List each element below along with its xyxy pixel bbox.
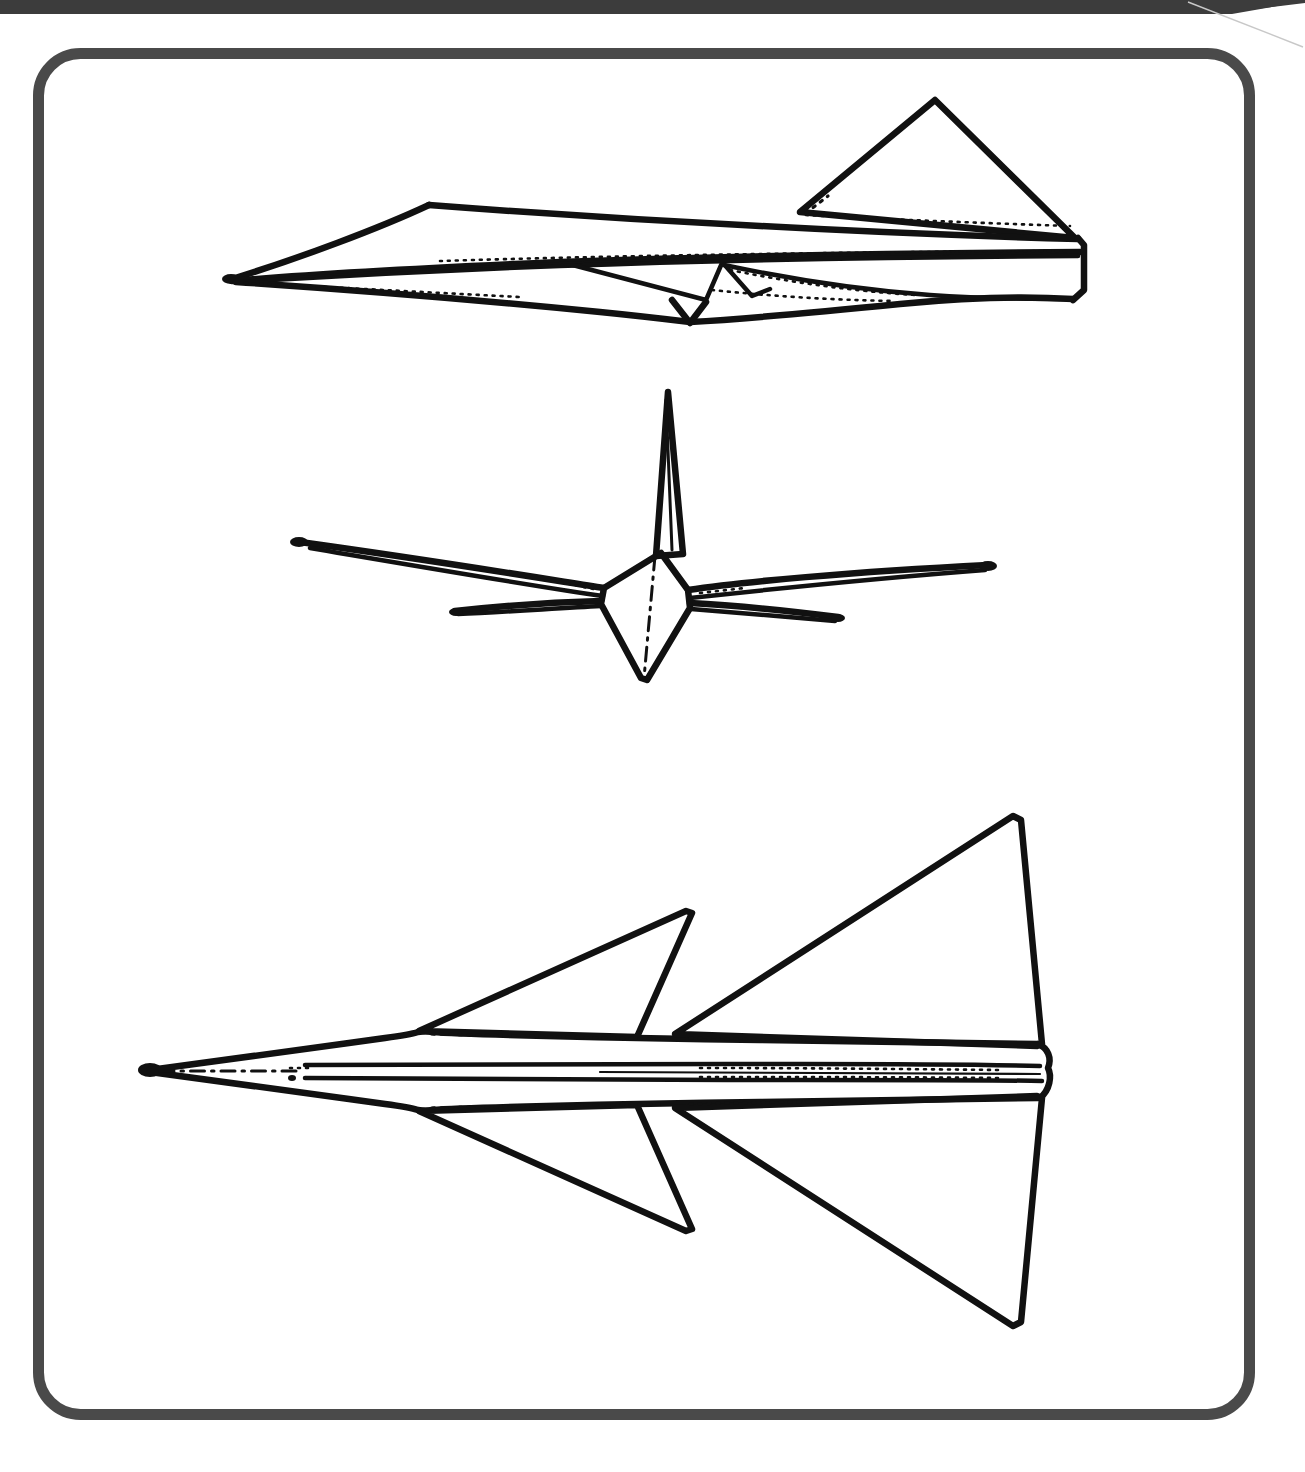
plan-tail-end — [1038, 1044, 1050, 1098]
side-upper-fuselage-line — [429, 205, 1078, 239]
plan-fuselage-inner-line-upper — [305, 1064, 1040, 1066]
front-right-wing-tip — [979, 561, 997, 571]
aircraft-side-elevation — [222, 100, 1084, 323]
side-wing-lower-leading-edge — [236, 282, 690, 322]
plan-fuselage-thin-line — [600, 1072, 1040, 1074]
front-centerline — [644, 556, 655, 678]
front-right-wing-upper — [688, 565, 988, 590]
aircraft-front-elevation — [290, 392, 997, 680]
front-left-wing-tip — [290, 537, 308, 547]
top-banner-bar — [0, 0, 1305, 14]
drawing-page — [0, 0, 1305, 1472]
technical-drawing-canvas — [0, 0, 1305, 1472]
plan-starboard-main-wing — [675, 1096, 1042, 1326]
front-left-canard-tip — [449, 608, 463, 616]
plan-port-canard — [419, 911, 692, 1037]
top-banner-notch — [1186, 0, 1305, 14]
top-banner — [0, 0, 1305, 47]
aircraft-plan-view — [138, 816, 1050, 1326]
plan-nose-speck — [288, 1075, 296, 1081]
side-engine-nacelle-forward — [565, 263, 722, 300]
plan-engine-duct-hidden-upper — [700, 1068, 1000, 1070]
plan-starboard-canard — [419, 1105, 692, 1231]
front-left-wing-upper — [300, 542, 604, 588]
front-right-canard-tip — [831, 614, 845, 622]
front-left-wing-lower — [310, 548, 603, 596]
side-vertical-fin — [800, 100, 1075, 238]
side-tail-end-closure — [1073, 238, 1084, 300]
side-nacelle-hidden-edge-lower — [712, 290, 895, 301]
plan-port-main-wing — [675, 816, 1042, 1046]
